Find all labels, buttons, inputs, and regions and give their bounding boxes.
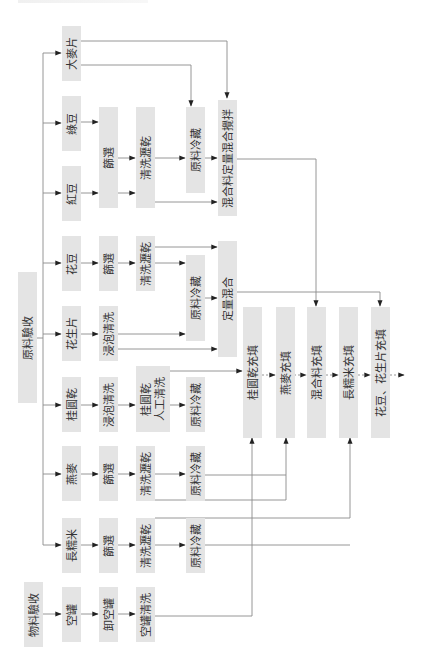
svg-text:原料冷藏: 原料冷藏 [189, 524, 203, 568]
svg-text:篩選: 篩選 [102, 535, 116, 557]
svg-text:花豆、花生片充填: 花豆、花生片充填 [374, 329, 388, 417]
svg-text:清洗瀝乾: 清洗瀝乾 [140, 452, 153, 496]
svg-text:清洗瀝乾: 清洗瀝乾 [140, 524, 153, 568]
node-mung-bean: 綠豆 [62, 96, 81, 151]
node-cold-storage-oats: 原料冷藏 [186, 446, 205, 501]
node-material-inspection: 物料驗收 [24, 582, 43, 647]
node-mix-quantitative-stir: 混合料定量混合攪拌 [218, 100, 237, 216]
svg-text:燕麥充填: 燕麥充填 [279, 351, 293, 395]
process-flowchart: 原料驗收 物料驗收 大麥片 綠豆 紅豆 花豆 花生片 桂圓乾 燕麥 長糯米 空罐 [0, 0, 427, 660]
svg-text:長糯米: 長糯米 [65, 529, 79, 562]
node-red-bean: 紅豆 [62, 166, 81, 221]
svg-text:燕麥: 燕麥 [66, 463, 79, 485]
node-wash-drain-beans: 清洗瀝乾 [136, 107, 155, 208]
node-can-washing: 空罐清洗 [136, 587, 155, 642]
node-soak-wash-longan: 浸泡清洗 [99, 377, 118, 432]
svg-text:花生片: 花生片 [65, 317, 79, 350]
svg-text:空罐清洗: 空罐清洗 [139, 593, 153, 637]
node-fill-rice: 長糯米充填 [339, 307, 358, 438]
svg-text:卸空罐: 卸空罐 [102, 598, 116, 631]
node-quantitative-mix: 定量混合 [218, 241, 237, 357]
node-dried-longan: 桂圓乾 [62, 377, 81, 432]
svg-text:原料冷藏: 原料冷藏 [189, 383, 203, 427]
node-unload-cans: 卸空罐 [99, 587, 118, 642]
svg-text:原料冷藏: 原料冷藏 [189, 128, 203, 172]
node-longan-manual-wash: 桂圓乾 人工清洗 [136, 366, 170, 432]
svg-text:混合料充填: 混合料充填 [310, 345, 324, 400]
svg-text:浸泡清洗: 浸泡清洗 [102, 383, 116, 427]
svg-text:紅豆: 紅豆 [66, 183, 79, 205]
node-wash-drain-oats: 清洗瀝乾 [136, 446, 155, 501]
node-wash-drain-rice: 清洗瀝乾 [136, 518, 155, 573]
svg-text:桂圓乾: 桂圓乾 [139, 383, 153, 416]
node-screening-beans: 篩選 [99, 107, 118, 208]
node-fill-bean-peanut: 花豆、花生片充填 [371, 307, 390, 438]
svg-text:大麥片: 大麥片 [65, 37, 79, 70]
svg-text:綠豆: 綠豆 [66, 113, 79, 135]
node-cold-storage-rice: 原料冷藏 [186, 518, 205, 573]
node-oats: 燕麥 [62, 446, 81, 501]
node-fill-oats: 燕麥充填 [276, 307, 295, 438]
node-screening-rice: 篩選 [99, 518, 118, 573]
svg-text:浸泡清洗: 浸泡清洗 [102, 312, 116, 356]
svg-text:篩選: 篩選 [102, 253, 116, 275]
node-empty-can: 空罐 [62, 587, 81, 642]
node-cold-storage-longan: 原料冷藏 [186, 377, 205, 432]
node-long-glutinous-rice: 長糯米 [62, 518, 81, 573]
svg-text:篩選: 篩選 [102, 463, 116, 485]
node-barley-flakes: 大麥片 [62, 26, 81, 81]
svg-text:桂圓乾: 桂圓乾 [65, 388, 79, 421]
svg-text:清洗瀝乾: 清洗瀝乾 [140, 136, 153, 180]
node-fill-longan: 桂圓乾充填 [243, 307, 262, 438]
svg-text:篩選: 篩選 [102, 147, 116, 169]
svg-text:定量混合: 定量混合 [221, 277, 235, 321]
node-fill-mix: 混合料充填 [307, 307, 326, 438]
node-screening-flower-bean: 篩選 [99, 236, 118, 291]
svg-text:原料驗收: 原料驗收 [21, 316, 35, 360]
node-screening-oats: 篩選 [99, 446, 118, 501]
svg-text:花豆: 花豆 [66, 253, 79, 275]
node-peanut-slices: 花生片 [62, 306, 81, 361]
node-flower-bean: 花豆 [62, 236, 81, 291]
svg-text:物料驗收: 物料驗收 [27, 593, 41, 637]
svg-text:空罐: 空罐 [65, 604, 79, 626]
svg-text:原料冷藏: 原料冷藏 [189, 452, 203, 496]
svg-text:原料冷藏: 原料冷藏 [189, 276, 203, 320]
svg-text:長糯米充填: 長糯米充填 [342, 345, 356, 400]
node-cold-storage-beans: 原料冷藏 [186, 107, 205, 193]
node-wash-drain-flower-bean: 清洗瀝乾 [136, 236, 155, 291]
svg-text:清洗瀝乾: 清洗瀝乾 [140, 242, 153, 286]
node-soak-wash-peanut: 浸泡清洗 [99, 306, 118, 361]
node-raw-inspection: 原料驗收 [18, 272, 37, 403]
node-cold-storage-flower-peanut: 原料冷藏 [186, 255, 205, 341]
svg-text:人工清洗: 人工清洗 [154, 377, 167, 421]
svg-text:混合料定量混合攪拌: 混合料定量混合攪拌 [221, 109, 235, 208]
svg-text:桂圓乾充填: 桂圓乾充填 [246, 345, 260, 400]
